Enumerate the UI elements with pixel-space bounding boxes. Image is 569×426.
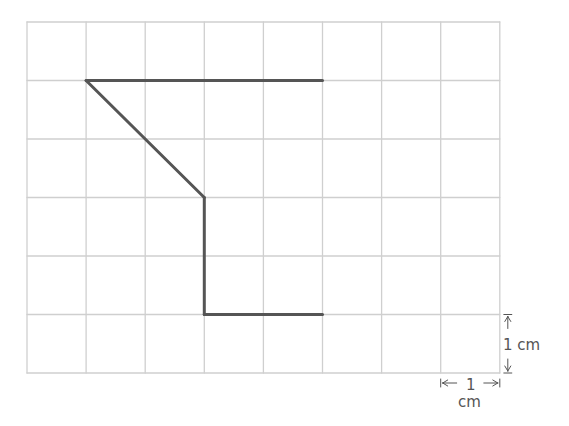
grid-diagram — [0, 0, 569, 426]
horizontal-scale-number: 1 — [466, 378, 476, 393]
vertical-scale-label: 1 cm — [503, 338, 540, 353]
horizontal-scale-unit: cm — [458, 395, 481, 410]
grid-lines — [27, 22, 500, 373]
scale-markers — [441, 315, 512, 388]
